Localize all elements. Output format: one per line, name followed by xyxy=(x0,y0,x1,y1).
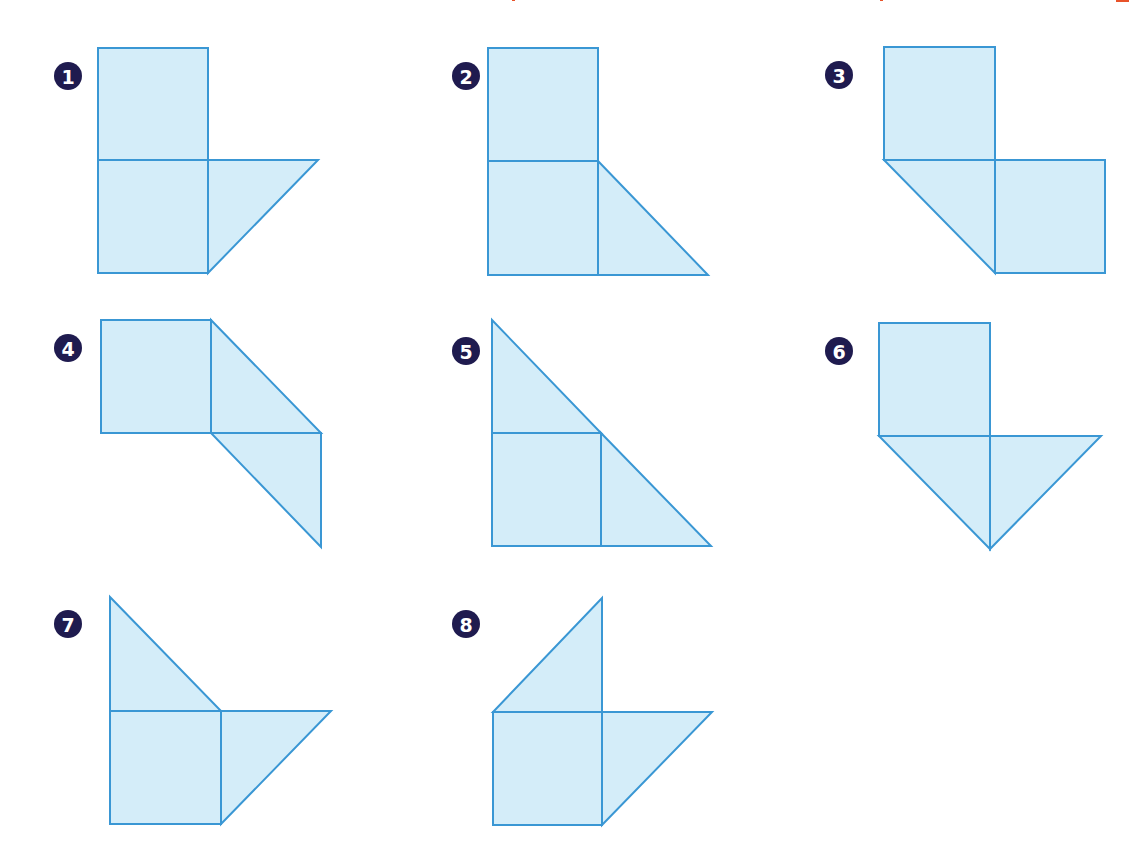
triangle-face xyxy=(884,160,995,273)
square-face xyxy=(98,48,208,160)
triangle-face xyxy=(492,320,601,433)
square-face xyxy=(98,160,208,273)
triangle-face xyxy=(221,711,331,824)
triangle-face xyxy=(493,598,602,712)
heading-fragment xyxy=(1116,0,1129,2)
heading-fragment xyxy=(880,0,883,1)
square-face xyxy=(488,161,598,275)
triangle-face xyxy=(208,160,318,273)
square-face xyxy=(110,711,221,824)
square-face xyxy=(493,712,602,825)
triangle-face xyxy=(879,436,990,549)
figure-number: 3 xyxy=(832,65,845,87)
net-figure-3: 3 xyxy=(825,47,1105,273)
triangle-face xyxy=(601,433,711,546)
figure-number: 5 xyxy=(459,341,472,363)
net-figure-8: 8 xyxy=(452,598,712,825)
net-figure-4: 4 xyxy=(54,320,321,547)
triangle-face xyxy=(990,436,1101,549)
net-figure-5: 5 xyxy=(452,320,711,546)
figure-number: 8 xyxy=(459,614,472,636)
net-figure-2: 2 xyxy=(452,48,708,275)
heading-fragment xyxy=(512,0,515,1)
triangle-face xyxy=(211,433,321,547)
net-figure-1: 1 xyxy=(54,48,318,273)
figure-number: 2 xyxy=(459,66,472,88)
figure-number: 1 xyxy=(61,66,74,88)
clipped-heading-fragments xyxy=(512,0,1129,2)
figure-number: 4 xyxy=(61,338,74,360)
triangle-face xyxy=(602,712,712,825)
triangle-face xyxy=(598,161,708,275)
nets-diagram-canvas: 12345678 xyxy=(0,0,1129,864)
triangle-face xyxy=(110,597,221,711)
figure-number: 7 xyxy=(61,614,74,636)
square-face xyxy=(488,48,598,161)
figure-number: 6 xyxy=(832,341,845,363)
net-figure-6: 6 xyxy=(825,323,1101,549)
triangle-face xyxy=(211,320,321,433)
square-face xyxy=(995,160,1105,273)
square-face xyxy=(884,47,995,160)
square-face xyxy=(879,323,990,436)
figures-group: 12345678 xyxy=(54,47,1105,825)
square-face xyxy=(492,433,601,546)
net-figure-7: 7 xyxy=(54,597,331,824)
square-face xyxy=(101,320,211,433)
